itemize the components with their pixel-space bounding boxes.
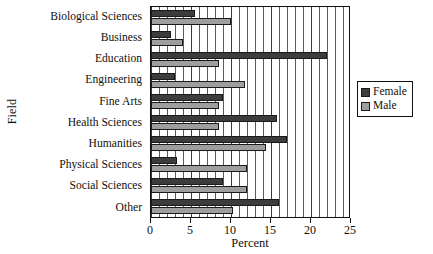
bar-female <box>151 73 175 80</box>
grouped-bar-chart: Field Biological SciencesBusinessEducati… <box>0 0 433 254</box>
bar-group <box>151 49 349 70</box>
category-label: Health Sciences <box>14 112 146 133</box>
bar-group <box>151 91 349 112</box>
bar-female <box>151 52 327 59</box>
y-axis-category-labels: Biological SciencesBusinessEducationEngi… <box>14 6 146 218</box>
bar-male <box>151 165 247 172</box>
bar-female <box>151 31 171 38</box>
x-axis: 0510152025 <box>150 218 350 219</box>
category-label: Engineering <box>14 70 146 91</box>
category-label: Education <box>14 48 146 69</box>
legend-item: Female <box>361 85 407 99</box>
bar-group <box>151 28 349 49</box>
category-label: Other <box>14 197 146 218</box>
bar-male <box>151 144 266 151</box>
category-label: Humanities <box>14 133 146 154</box>
bars-layer <box>151 7 349 217</box>
category-label: Fine Arts <box>14 91 146 112</box>
category-label: Physical Sciences <box>14 154 146 175</box>
male-swatch <box>361 102 370 111</box>
bar-group <box>151 133 349 154</box>
bar-group <box>151 112 349 133</box>
chart-legend: FemaleMale <box>357 81 413 117</box>
bar-female <box>151 199 279 206</box>
legend-label: Male <box>373 100 397 112</box>
bar-male <box>151 123 219 130</box>
legend-item: Male <box>361 99 407 113</box>
x-axis-title: Percent <box>150 236 350 251</box>
bar-female <box>151 178 223 185</box>
bar-group <box>151 7 349 28</box>
category-label: Biological Sciences <box>14 6 146 27</box>
category-label: Business <box>14 27 146 48</box>
bar-group <box>151 70 349 91</box>
plot-area <box>150 6 350 218</box>
bar-male <box>151 60 219 67</box>
bar-male <box>151 102 219 109</box>
bar-group <box>151 154 349 175</box>
bar-female <box>151 157 177 164</box>
bar-female <box>151 136 287 143</box>
bar-male <box>151 207 233 214</box>
bar-group <box>151 175 349 196</box>
bar-female <box>151 94 223 101</box>
female-swatch <box>361 88 370 97</box>
bar-male <box>151 18 231 25</box>
bar-female <box>151 115 277 122</box>
legend-label: Female <box>373 86 407 98</box>
bar-male <box>151 81 245 88</box>
bar-group <box>151 196 349 217</box>
bar-male <box>151 186 247 193</box>
bar-female <box>151 10 195 17</box>
bar-male <box>151 39 183 46</box>
category-label: Social Sciences <box>14 176 146 197</box>
